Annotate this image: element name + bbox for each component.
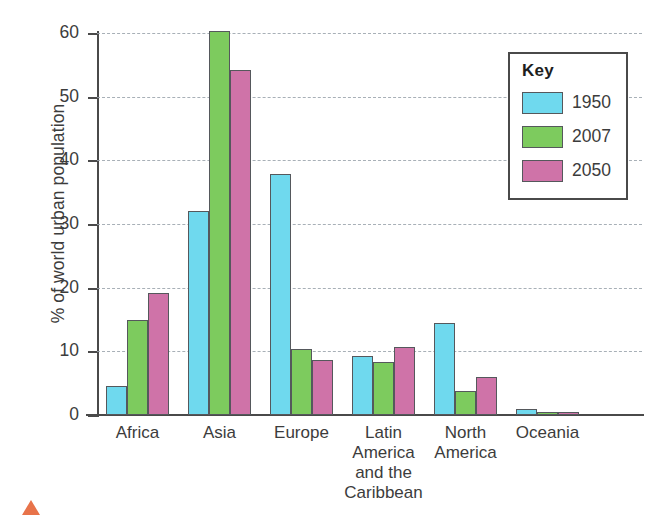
y-tick-label-60: 60 [39, 22, 79, 43]
legend-entry-label: 2050 [572, 160, 611, 181]
bar [537, 412, 558, 415]
bar [106, 386, 127, 415]
bar [394, 347, 415, 415]
y-tick-label-30: 30 [39, 213, 79, 234]
bar [352, 356, 373, 415]
bar [558, 412, 579, 415]
y-tick-label-50: 50 [39, 86, 79, 107]
legend-color-swatch [522, 160, 563, 182]
bar [148, 293, 169, 415]
bar [209, 31, 230, 415]
x-axis-label-line: Oceania [488, 423, 608, 443]
legend-color-swatch [522, 126, 563, 148]
y-tick-mark-40 [88, 160, 97, 162]
bar [434, 323, 455, 415]
bar [455, 391, 476, 415]
legend-title: Key [522, 61, 626, 81]
bar-group [270, 33, 333, 415]
legend-entry: 1950 [522, 87, 626, 118]
y-tick-label-20: 20 [39, 277, 79, 298]
page-marker-triangle-icon [22, 500, 40, 515]
bar [127, 320, 148, 416]
bar-chart-figure: % of world urban population 010203040506… [0, 0, 654, 524]
legend-box: Key 195020072050 [508, 52, 628, 200]
bar-group [434, 33, 497, 415]
y-tick-mark-20 [88, 288, 97, 290]
bar [291, 349, 312, 415]
bar-group [188, 33, 251, 415]
x-axis-label-line: and the [324, 463, 444, 483]
legend-entry-label: 1950 [572, 92, 611, 113]
legend-entry: 2007 [522, 121, 626, 152]
bar [230, 70, 251, 415]
y-tick-mark-0 [88, 415, 97, 417]
bar-group [352, 33, 415, 415]
legend-color-swatch [522, 92, 563, 114]
bar [270, 174, 291, 415]
y-tick-mark-30 [88, 224, 97, 226]
bar [312, 360, 333, 415]
legend-entry-label: 2007 [572, 126, 611, 147]
y-tick-mark-10 [88, 351, 97, 353]
y-tick-mark-60 [88, 33, 97, 35]
x-axis-label-line: America [406, 443, 526, 463]
legend-entry: 2050 [522, 155, 626, 186]
bar [476, 377, 497, 415]
bar [373, 362, 394, 415]
legend-entry-list: 195020072050 [522, 87, 626, 186]
bar [188, 211, 209, 415]
x-axis-category-label: Oceania [488, 423, 608, 443]
bar [516, 409, 537, 415]
y-tick-label-0: 0 [39, 404, 79, 425]
y-tick-label-40: 40 [39, 149, 79, 170]
y-tick-label-10: 10 [39, 340, 79, 361]
bar-group [106, 33, 169, 415]
x-axis-label-line: Caribbean [324, 483, 444, 503]
y-tick-mark-50 [88, 97, 97, 99]
